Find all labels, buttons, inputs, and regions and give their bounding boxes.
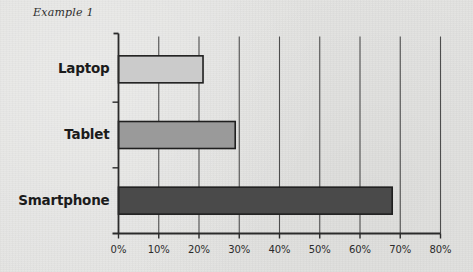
bar xyxy=(119,122,236,149)
bar xyxy=(119,56,204,83)
bars-group xyxy=(119,56,393,214)
category-label-smartphone: Smartphone xyxy=(18,194,109,208)
category-label-laptop: Laptop xyxy=(58,62,110,76)
category-label-tablet: Tablet xyxy=(64,128,109,142)
bar xyxy=(119,187,393,214)
x-tick-label: 80% xyxy=(416,245,466,255)
